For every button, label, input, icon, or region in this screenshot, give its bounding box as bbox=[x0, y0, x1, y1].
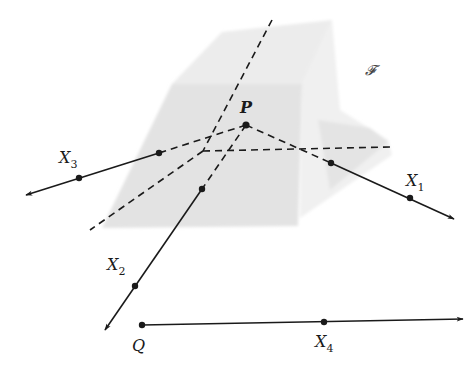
label-X2-sub: 2 bbox=[118, 265, 125, 278]
ray-X1 bbox=[331, 163, 454, 219]
label-X1-main: X bbox=[404, 171, 418, 190]
label-P: P bbox=[239, 98, 253, 117]
label-Q: Q bbox=[132, 336, 145, 355]
label-X3-sub: 3 bbox=[70, 158, 77, 171]
label-X3: X3 bbox=[57, 148, 77, 171]
label-X2: X2 bbox=[105, 255, 125, 278]
point-Q bbox=[139, 322, 145, 328]
point-X1 bbox=[407, 195, 413, 201]
point-X1-near bbox=[328, 160, 334, 166]
point-X4 bbox=[321, 319, 327, 325]
point-X2-near bbox=[199, 186, 205, 192]
ray-Q-X4 bbox=[142, 319, 463, 325]
label-X1: X1 bbox=[404, 171, 424, 194]
point-X3 bbox=[76, 175, 82, 181]
label-X4-sub: 4 bbox=[326, 342, 333, 355]
point-X2 bbox=[132, 283, 138, 289]
point-X3-near bbox=[156, 150, 162, 156]
label-X4-main: X bbox=[313, 332, 327, 351]
label-X3-main: X bbox=[57, 148, 71, 167]
label-X2-main: X bbox=[105, 255, 119, 274]
geometry-diagram: P X3 X1 X2 Q X4 𝓕 bbox=[0, 0, 468, 373]
plane-front-face bbox=[102, 84, 302, 228]
point-P bbox=[242, 121, 249, 128]
label-X4: X4 bbox=[313, 332, 333, 355]
label-X1-sub: 1 bbox=[417, 181, 424, 194]
label-plane-F: 𝓕 bbox=[365, 62, 380, 78]
